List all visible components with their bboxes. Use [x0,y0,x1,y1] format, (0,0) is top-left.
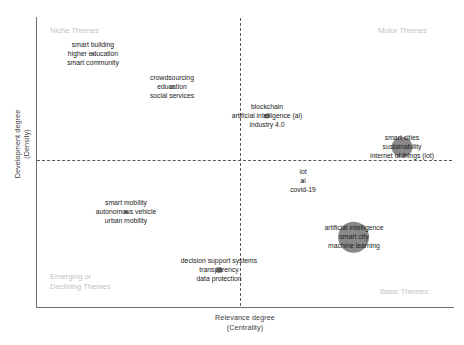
thematic-map-figure: Niche Themes Motor Themes Emerging or De… [0,0,464,345]
cluster-term-label: industry 4.0 [232,121,303,130]
quadrant-label-motor-themes: Motor Themes [378,26,427,36]
cluster-bubble-smart-building[interactable] [91,52,94,55]
cluster-term-label: social services [150,92,194,101]
quadrant-label-emerging-declining-themes: Emerging or Declining Themes [50,272,111,291]
cluster-bubble-crowdsourcing[interactable] [170,85,174,89]
cluster-term-label: sustainability [370,142,434,151]
vertical-quadrant-divider [240,18,241,306]
cluster-term-label: machine learning [325,242,384,251]
cluster-term-label: covid-19 [290,186,316,195]
cluster-term-label: smart cities [370,133,434,142]
x-axis-title-main: Relevance degree [215,313,275,322]
cluster-term-label: autonomous vehicle [96,207,156,216]
cluster-term-label: higher education [67,49,119,58]
horizontal-quadrant-divider [37,160,452,161]
x-axis-title: Relevance degree (Centrality) [36,313,454,332]
cluster-term-label: blockchain [232,102,303,111]
cluster-term-label: ai [290,176,316,185]
cluster-terms-iot: iotaicovid-19 [290,167,316,195]
cluster-term-label: smart city [325,232,384,241]
y-axis-title: Development degree (Density) [13,69,31,219]
cluster-terms-crowdsourcing: crowdsourcingeducationsocial services [150,73,194,101]
cluster-term-label: urban mobility [96,217,156,226]
cluster-term-label: smart mobility [96,198,156,207]
cluster-term-label: education [150,82,194,91]
cluster-artificial-intelligence[interactable]: artificial intelligencesmart citymachine… [325,223,384,251]
cluster-term-label: decision support systems [181,256,257,265]
cluster-term-label: artificial intelligence [325,223,384,232]
cluster-terms-smart-mobility: smart mobilityautonomous vehicleurban mo… [96,198,156,226]
cluster-term-label: data protection [181,275,257,284]
cluster-iot[interactable]: iotaicovid-19 [290,167,316,195]
cluster-bubble-artificial-intelligence[interactable] [339,221,370,252]
cluster-terms-artificial-intelligence: artificial intelligencesmart citymachine… [325,223,384,251]
y-axis-title-sub: (Density) [22,69,31,219]
y-axis-title-main: Development degree [13,110,22,179]
cluster-term-label: smart community [67,59,119,68]
cluster-term-label: artificial intelligence (ai) [232,111,303,120]
cluster-bubble-smart-cities[interactable] [391,136,412,157]
x-axis-title-sub: (Centrality) [36,323,454,333]
cluster-bubble-smart-mobility[interactable] [124,210,128,214]
y-axis-line [36,17,37,308]
cluster-smart-mobility[interactable]: smart mobilityautonomous vehicleurban mo… [96,198,156,226]
cluster-bubble-decision-support-systems[interactable] [216,267,222,273]
quadrant-label-niche-themes: Niche Themes [50,26,99,36]
cluster-bubble-blockchain[interactable] [264,113,270,119]
cluster-terms-blockchain: blockchainartificial intelligence (ai)in… [232,102,303,130]
quadrant-label-basic-themes: Basic Themes [380,287,428,297]
cluster-blockchain[interactable]: blockchainartificial intelligence (ai)in… [232,102,303,130]
cluster-term-label: transparency [181,265,257,274]
cluster-terms-decision-support-systems: decision support systemstransparencydata… [181,256,257,284]
cluster-terms-smart-building: smart buildinghigher educationsmart comm… [67,40,119,68]
cluster-term-label: iot [290,167,316,176]
x-axis-line [36,307,454,308]
cluster-terms-smart-cities: smart citiessustainabilityinternet of th… [370,133,434,161]
cluster-term-label: crowdsourcing [150,73,194,82]
cluster-decision-support-systems[interactable]: decision support systemstransparencydata… [181,256,257,284]
cluster-term-label: smart building [67,40,119,49]
cluster-bubble-iot[interactable] [302,180,304,182]
cluster-smart-building[interactable]: smart buildinghigher educationsmart comm… [67,40,119,68]
cluster-smart-cities[interactable]: smart citiessustainabilityinternet of th… [370,133,434,161]
cluster-crowdsourcing[interactable]: crowdsourcingeducationsocial services [150,73,194,101]
